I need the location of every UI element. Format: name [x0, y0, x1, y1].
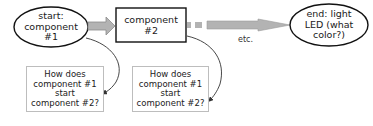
component2-node: component #2: [116, 9, 186, 42]
component2-node-line2: #2: [144, 26, 158, 37]
arrow-dash-1: [187, 22, 191, 28]
arrow-component2-to-end: [207, 19, 290, 31]
end-node: end: light LED (what color?): [292, 6, 366, 44]
arrow-start-to-component2: [88, 17, 115, 35]
arrow-dash-2: [195, 22, 202, 28]
question-box-2: How does component #1 start component #2…: [132, 66, 209, 112]
etc-label: etc.: [238, 35, 253, 44]
component2-node-line1: component: [124, 15, 178, 26]
end-node-line3: color?): [313, 30, 345, 41]
question2-line4: component #2?: [137, 99, 205, 109]
question-box-1: How does component #1 start component #2…: [26, 66, 104, 112]
start-node-line3: #1: [44, 32, 58, 43]
question1-line4: component #2?: [31, 99, 99, 109]
start-node: start: component #1: [16, 9, 86, 45]
